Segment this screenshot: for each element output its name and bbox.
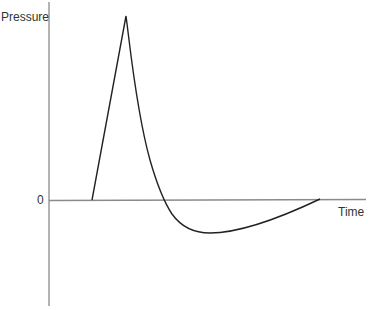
y-zero-tick-label: 0 <box>37 193 44 207</box>
y-axis-label: Pressure <box>1 10 49 24</box>
pressure-time-chart <box>0 0 369 310</box>
x-axis-label: Time <box>338 205 364 219</box>
